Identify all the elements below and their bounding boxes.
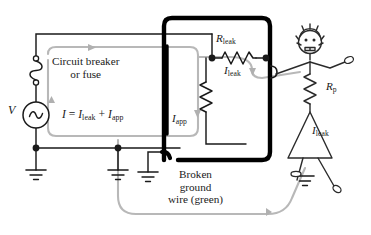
circuit-breaker-symbol[interactable] — [30, 56, 42, 85]
junction-dot-rleak-right — [263, 55, 270, 62]
i-leak-person-subscript: leak — [316, 129, 329, 138]
arrow-app-down — [194, 110, 201, 118]
breaker-s-curve — [30, 61, 42, 80]
equation-i: I — [62, 108, 66, 121]
broken-ground-label-line2: ground — [180, 181, 212, 193]
i-app-label: Iapp — [172, 112, 187, 126]
i-leak-person-label: Ileak — [312, 124, 329, 138]
r-leak-symbol: R — [216, 32, 223, 44]
i-leak-wire-subscript: leak — [228, 69, 241, 78]
current-equation-label: I = Ileak + Iapp — [62, 108, 124, 123]
r-p-label: Rp — [326, 80, 337, 94]
i-app-subscript: app — [176, 117, 187, 126]
broken-ground-label-line3: wire (green) — [168, 193, 223, 205]
junction-dot-mid — [115, 145, 122, 152]
person-arm-right — [310, 62, 345, 68]
appliance-internal-wiring — [206, 34, 266, 144]
person-figure — [276, 24, 354, 194]
voltage-source-label: V — [8, 104, 15, 117]
wire-top-hot — [36, 34, 212, 57]
person-hand-right — [344, 55, 355, 64]
r-p-subscript: p — [333, 85, 337, 94]
person-body-resistor-zigzag — [304, 74, 316, 104]
arrow-leak-down — [249, 68, 256, 76]
r-p-symbol: R — [326, 80, 333, 92]
arrow-top-flow — [88, 44, 96, 51]
circuit-breaker-label-line2: or fuse — [70, 68, 101, 80]
equation-plus: + — [99, 108, 106, 121]
person-leg-right — [318, 158, 334, 186]
junction-dot-left — [33, 145, 40, 152]
equation-i-app-subscript: app — [112, 113, 124, 122]
i-leak-wire-label: Ileak — [224, 64, 241, 78]
circuit-breaker-label-line1: Circuit breaker — [52, 55, 119, 67]
wire-resistor-to-bottom — [206, 112, 246, 144]
equation-i-leak-subscript: leak — [82, 113, 96, 122]
circuit-breaker-label: Circuit breaker or fuse — [52, 55, 119, 80]
r-leak-subscript: leak — [223, 37, 236, 46]
wire-broken-ground-stub — [148, 152, 162, 172]
broken-ground-label-line1: Broken — [179, 168, 212, 180]
broken-ground-wire-label: Broken ground wire (green) — [168, 168, 223, 206]
ac-voltage-source-symbol — [23, 102, 49, 128]
ground-symbol-broken-wire — [138, 172, 158, 182]
junction-dot-appliance-node — [209, 55, 216, 62]
person-eye-right — [313, 39, 316, 42]
equation-equals: = — [69, 108, 76, 121]
person-foot-left — [291, 171, 301, 176]
person-eye-left — [305, 39, 308, 42]
r-leak-label: Rleak — [216, 32, 236, 46]
ground-symbol-left — [26, 170, 46, 180]
circuit-diagram-figure: Circuit breaker or fuse Broken ground wi… — [0, 0, 371, 235]
appliance-resistor-zigzag — [200, 82, 212, 112]
